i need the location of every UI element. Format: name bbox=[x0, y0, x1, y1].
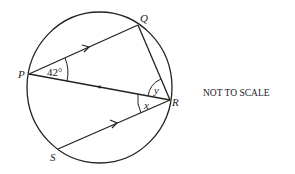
point-label-r: R bbox=[171, 96, 179, 108]
circle-theorem-diagram: P Q R S 42° y x bbox=[0, 0, 295, 174]
chord-sr bbox=[58, 100, 170, 149]
parallel-arrow-sr bbox=[110, 120, 117, 128]
center-point bbox=[98, 86, 101, 89]
angle-label-42: 42° bbox=[47, 66, 62, 78]
point-label-p: P bbox=[17, 68, 25, 80]
not-to-scale-note: NOT TO SCALE bbox=[203, 88, 270, 98]
point-label-q: Q bbox=[140, 12, 148, 24]
angle-arc-p bbox=[65, 58, 68, 81]
angle-arc-x bbox=[138, 94, 141, 113]
angle-label-y: y bbox=[153, 84, 159, 96]
point-label-s: S bbox=[50, 151, 56, 163]
angle-label-x: x bbox=[143, 99, 149, 111]
chord-pq bbox=[29, 25, 138, 74]
